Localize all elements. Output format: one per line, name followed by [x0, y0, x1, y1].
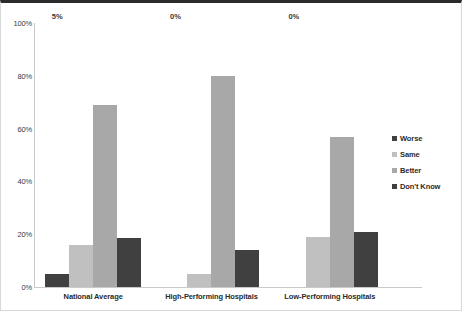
bar[interactable] — [235, 250, 259, 287]
bar-slot — [69, 23, 93, 287]
legend-swatch-icon — [392, 136, 397, 141]
y-tick-label: 20% — [2, 230, 32, 239]
bar[interactable] — [306, 237, 330, 287]
x-category-label: National Average — [34, 292, 152, 301]
legend-item[interactable]: Don't Know — [392, 182, 440, 191]
legend-swatch-icon — [392, 184, 397, 189]
legend-item[interactable]: Better — [392, 166, 440, 175]
bar[interactable] — [69, 245, 93, 287]
x-axis-line — [34, 287, 422, 288]
bar-slot — [93, 23, 117, 287]
bar-chart: 100%80%60%40%20%0% 5%0%0% National Avera… — [0, 0, 462, 311]
bar-slot — [330, 23, 354, 287]
bar-slot: 0% — [163, 23, 187, 287]
bar[interactable] — [330, 137, 354, 287]
bar-group: 0% — [152, 23, 270, 287]
y-tick-label: 40% — [2, 177, 32, 186]
legend-item[interactable]: Worse — [392, 134, 440, 143]
legend-item[interactable]: Same — [392, 150, 440, 159]
bar-slot — [306, 23, 330, 287]
bar-group-bars: 0% — [271, 23, 389, 287]
bar-slot: 0% — [282, 23, 306, 287]
legend-label: Same — [400, 150, 420, 159]
bar[interactable] — [211, 76, 235, 287]
y-axis-tick-labels: 100%80%60%40%20%0% — [1, 23, 32, 287]
bar[interactable]: 5% — [45, 274, 69, 287]
bar-slot — [117, 23, 141, 287]
bar-groups: 5%0%0% — [34, 23, 389, 287]
bar-value-label: 5% — [52, 12, 63, 21]
y-tick-label: 0% — [2, 283, 32, 292]
bar-slot — [235, 23, 259, 287]
x-axis-category-labels: National AverageHigh-Performing Hospital… — [34, 292, 389, 301]
legend-label: Worse — [400, 134, 422, 143]
bar-value-label: 0% — [288, 12, 299, 21]
bar-slot — [354, 23, 378, 287]
bar-group: 5% — [34, 23, 152, 287]
legend-swatch-icon — [392, 168, 397, 173]
bar-group-bars: 0% — [152, 23, 270, 287]
bar-slot: 5% — [45, 23, 69, 287]
legend-swatch-icon — [392, 152, 397, 157]
bar-slot — [187, 23, 211, 287]
legend-label: Don't Know — [400, 182, 440, 191]
chart-legend: WorseSameBetterDon't Know — [392, 134, 440, 191]
y-tick-label: 100% — [2, 19, 32, 28]
x-category-label: High-Performing Hospitals — [152, 292, 270, 301]
x-category-label: Low-Performing Hospitals — [271, 292, 389, 301]
bar-value-label: 0% — [170, 12, 181, 21]
bar[interactable] — [93, 105, 117, 287]
legend-label: Better — [400, 166, 421, 175]
y-tick-label: 80% — [2, 71, 32, 80]
bar-group-bars: 5% — [34, 23, 152, 287]
bar[interactable] — [117, 238, 141, 287]
bar-slot — [211, 23, 235, 287]
bar-group: 0% — [271, 23, 389, 287]
bar[interactable] — [354, 232, 378, 287]
bar[interactable] — [187, 274, 211, 287]
y-tick-label: 60% — [2, 124, 32, 133]
